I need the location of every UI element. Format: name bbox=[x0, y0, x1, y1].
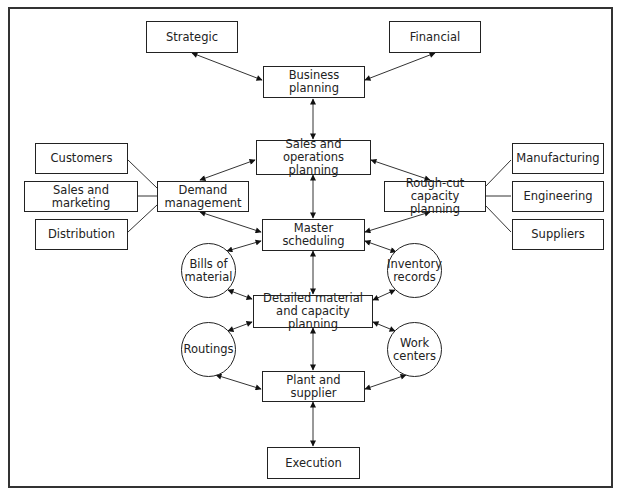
node-master-scheduling: Master scheduling bbox=[262, 219, 365, 251]
arrow-demand-master bbox=[200, 212, 261, 232]
arrow-workcenters-detailed bbox=[373, 322, 395, 331]
arrow-routings-detailed bbox=[228, 322, 252, 331]
arrow-master-bills bbox=[227, 241, 261, 251]
node-financial: Financial bbox=[389, 21, 481, 53]
node-routings: Routings bbox=[181, 322, 236, 377]
arrow-inventory-detailed bbox=[373, 290, 395, 300]
arrow-bills-detailed bbox=[228, 290, 252, 299]
node-detailed-material-capacity-planning: Detailed material and capacity planning bbox=[253, 295, 373, 328]
node-strategic: Strategic bbox=[146, 21, 238, 53]
node-demand-management: Demand management bbox=[157, 181, 249, 212]
node-business-planning: Business planning bbox=[263, 66, 365, 98]
node-sales-and-marketing: Sales and marketing bbox=[24, 181, 138, 212]
node-distribution: Distribution bbox=[35, 219, 128, 250]
arrow-workcenters-plant bbox=[365, 375, 406, 389]
mpc-system-diagram: Strategic Financial Business planning Sa… bbox=[0, 0, 624, 501]
node-customers: Customers bbox=[35, 143, 128, 174]
node-rough-cut-capacity-planning: Rough-cut capacity planning bbox=[384, 181, 486, 212]
arrow-master-inventory bbox=[365, 241, 396, 252]
node-engineering: Engineering bbox=[512, 181, 604, 212]
node-work-centers: Work centers bbox=[387, 322, 442, 377]
arrow-strategic-business bbox=[192, 53, 262, 80]
node-plant-and-supplier: Plant and supplier bbox=[262, 371, 365, 402]
arrow-sop-demand bbox=[200, 160, 255, 180]
node-execution: Execution bbox=[267, 447, 360, 479]
arrow-financial-business bbox=[365, 53, 435, 80]
line-manufacturing-roughcut bbox=[485, 160, 511, 187]
node-bills-of-material: Bills of material bbox=[181, 243, 236, 298]
node-suppliers: Suppliers bbox=[512, 219, 604, 250]
arrow-routings-plant bbox=[216, 375, 261, 389]
node-sales-operations-planning: Sales and operations planning bbox=[256, 140, 371, 175]
line-suppliers-roughcut bbox=[485, 205, 511, 232]
node-manufacturing: Manufacturing bbox=[512, 143, 604, 174]
node-inventory-records: Inventory records bbox=[387, 243, 442, 298]
